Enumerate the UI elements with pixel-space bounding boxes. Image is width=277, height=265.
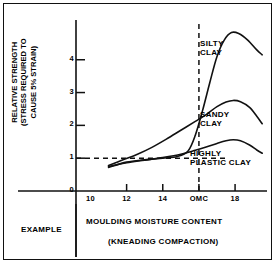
x-axis-subtitle: (KNEADING COMPACTION) [108, 238, 219, 247]
y-tick-label: 1 [65, 153, 74, 161]
y-tick-label: 3 [65, 88, 74, 96]
x-axis-title: MOULDING MOISTURE CONTENT [86, 218, 222, 227]
x-tick-label: 12 [113, 195, 141, 203]
data-curves-group [109, 32, 263, 167]
x-tick-label: 18 [221, 195, 249, 203]
y-tick-label: 4 [65, 55, 74, 63]
curve-silty-clay [109, 32, 263, 167]
series-label-sandy-clay: SANDY CLAY [200, 111, 230, 129]
series-label-highly-plastic-clay: HIGHLY PLASTIC CLAY [190, 150, 251, 168]
series-label-silty-clay: SILTY CLAY [200, 40, 224, 58]
y-tick-label: 0 [65, 186, 74, 194]
x-tick-label: OMC [185, 195, 213, 203]
y-tick-label: 2 [65, 120, 74, 128]
x-tick-label: 14 [149, 195, 177, 203]
x-tick-label: 10 [76, 195, 104, 203]
x-tick-marks [127, 184, 235, 191]
figure-frame: RELATIVE STRENGTH (STRESS REQUIRED TO CA… [3, 3, 272, 260]
caption-example: EXAMPLE [21, 226, 62, 235]
y-tick-marks [76, 60, 85, 158]
